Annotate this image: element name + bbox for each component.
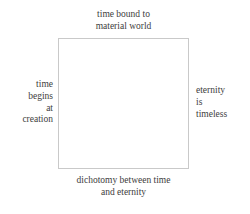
center-square — [58, 38, 189, 169]
label-bottom-dichotomy-between-time-and-eternity: dichotomy between time and eternity — [43, 175, 204, 199]
label-top-time-bound-to-material-world: time bound to material world — [58, 9, 189, 33]
label-left-time-begins-at-creation: time begins at creation — [0, 79, 53, 126]
label-right-eternity-is-timeless: eternity is timeless — [196, 85, 250, 120]
diagram-canvas: time bound to material world time begins… — [0, 0, 250, 214]
